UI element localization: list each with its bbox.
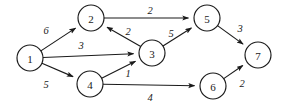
graph-canvas: 6352251432 1234567 (0, 0, 284, 111)
node-label-2: 2 (88, 13, 94, 25)
edge-weight-3-5: 5 (168, 28, 173, 39)
node-label-4: 4 (87, 79, 93, 91)
edge-weight-3-2: 2 (125, 26, 131, 37)
edge-weight-6-7: 2 (239, 78, 245, 89)
edge-weight-2-5: 2 (147, 5, 153, 16)
edge-3-to-5 (163, 28, 191, 46)
graph-diagram: 6352251432 1234567 (0, 0, 284, 111)
node-6: 6 (200, 73, 226, 99)
edge-weight-4-3: 1 (125, 68, 130, 79)
node-2: 2 (78, 5, 104, 31)
edge-1-to-3 (43, 54, 134, 58)
node-label-3: 3 (149, 48, 155, 60)
edge-4-to-6 (103, 84, 195, 85)
edge-3-to-2 (107, 27, 141, 46)
node-3: 3 (139, 40, 165, 66)
edge-1-to-4 (42, 63, 73, 76)
node-7: 7 (245, 42, 271, 68)
edge-weight-1-3: 3 (77, 40, 83, 51)
node-label-6: 6 (210, 81, 216, 93)
node-label-1: 1 (27, 53, 33, 65)
node-label-5: 5 (204, 13, 210, 25)
node-label-7: 7 (255, 50, 261, 62)
node-5: 5 (194, 5, 220, 31)
edge-weight-4-6: 4 (147, 92, 153, 103)
edge-weight-1-2: 6 (43, 25, 49, 36)
node-4: 4 (77, 71, 103, 97)
edge-weight-1-4: 5 (43, 79, 48, 90)
node-1: 1 (17, 45, 43, 71)
edge-weight-5-7: 3 (236, 23, 242, 34)
